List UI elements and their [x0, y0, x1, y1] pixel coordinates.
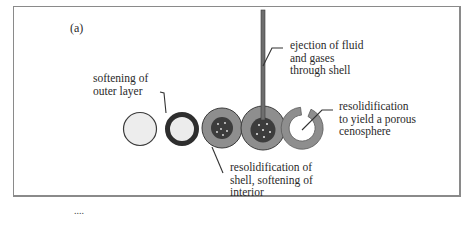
label-softening-outer-layer: softening of outer layer — [93, 72, 148, 97]
label-line: outer layer — [93, 85, 148, 98]
stage-5-porous-cenosphere — [281, 107, 323, 149]
stage-3-softened-interior — [202, 108, 242, 148]
leader-ejection — [263, 48, 283, 66]
label-line: to yield a porous — [339, 113, 416, 126]
label-line: cenosphere — [339, 125, 416, 138]
label-line: shell, softening of — [230, 174, 313, 187]
label-line: resolidification of — [230, 161, 313, 174]
label-line: resolidification — [339, 100, 416, 113]
label-line: softening of — [93, 72, 148, 85]
stage-2-softened-outer-layer — [168, 115, 197, 144]
label-line: ejection of fluid — [290, 39, 363, 52]
leader-softening-outer — [160, 92, 166, 113]
label-line: interior — [230, 186, 313, 199]
label-ejection: ejection of fluid and gases through shel… — [290, 39, 363, 77]
stage-4-gas-ejection — [241, 10, 285, 150]
label-line: and gases — [290, 52, 363, 65]
label-line: through shell — [290, 64, 363, 77]
leader-resolidification-shell — [212, 147, 223, 173]
stage-1-particle — [124, 113, 157, 146]
label-resolidification-shell: resolidification of shell, softening of … — [230, 161, 313, 199]
label-resolidification-porous: resolidification to yield a porous cenos… — [339, 100, 416, 138]
footer-ellipsis: .... — [74, 205, 84, 216]
